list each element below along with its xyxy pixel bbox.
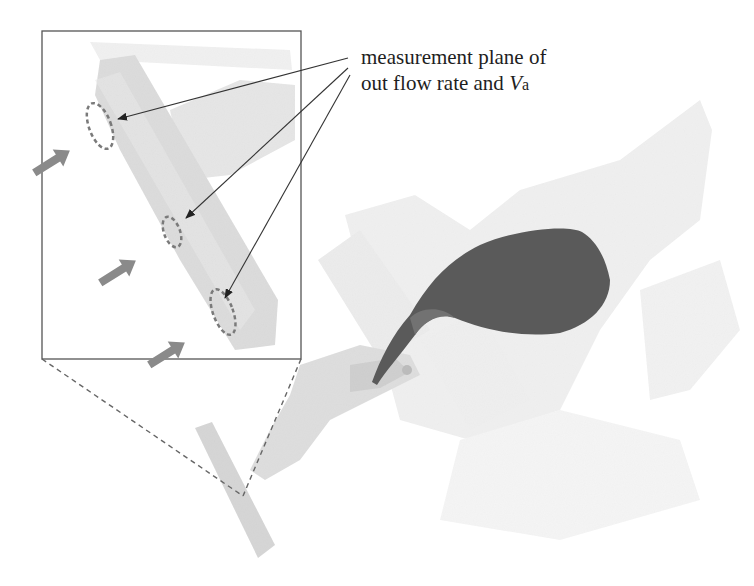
label-line-2-text: out flow rate and	[361, 71, 509, 95]
runner	[250, 345, 420, 480]
measurement-plane-label: measurement plane of out flow rate and V…	[361, 44, 546, 98]
gate-bar	[195, 422, 275, 558]
velocity-variable: V	[509, 71, 522, 95]
label-line-1: measurement plane of	[361, 44, 546, 70]
velocity-subscript: a	[522, 76, 529, 93]
label-line-2: out flow rate and Va	[361, 70, 546, 98]
